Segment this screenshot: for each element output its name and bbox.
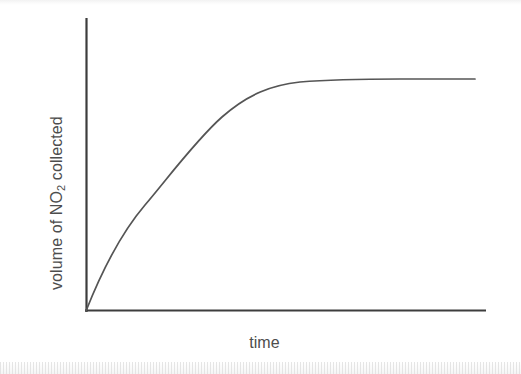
x-axis-label: time (4, 334, 521, 352)
chart-plot-area (0, 0, 521, 374)
y-axis-label-prefix: volume of NO (48, 191, 65, 290)
y-axis-label-subscript: 2 (55, 185, 67, 191)
data-curve-volume-vs-time (86, 79, 475, 311)
y-axis-label-suffix: collected (48, 116, 65, 185)
y-axis-label: volume of NO2 collected (48, 116, 66, 290)
scan-artifact-bottom (0, 362, 521, 374)
chart-figure: volume of NO2 collected time (0, 0, 521, 374)
